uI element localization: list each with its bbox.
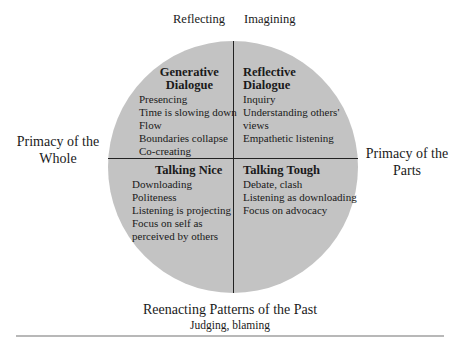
quadrant-generative-dialogue: Generative Dialogue Presencing Time is s… [139, 66, 237, 158]
horizontal-axis-line [108, 158, 358, 159]
quadrant-items: Debate, clash Listening as downloading F… [243, 178, 357, 217]
quadrant-talking-nice: Talking Nice Downloading Politeness List… [132, 164, 231, 243]
quadrant-title: Talking Tough [243, 164, 357, 177]
quadrant-talking-tough: Talking Tough Debate, clash Listening as… [243, 164, 357, 217]
quadrant-title: Reflective Dialogue [243, 66, 339, 92]
quadrant-reflective-dialogue: Reflective Dialogue Inquiry Understandin… [243, 66, 339, 145]
quadrant-items: Downloading Politeness Listening is proj… [132, 178, 231, 243]
quadrant-items: Presencing Time is slowing down Flow Bou… [139, 93, 237, 158]
side-label-whole: Primacy of the Whole [4, 133, 112, 167]
side-label-parts: Primacy of the Parts [353, 145, 460, 179]
quadrant-items: Inquiry Understanding others' views Empa… [243, 93, 339, 145]
top-label-imagining: Imagining [244, 12, 295, 27]
bottom-rule [16, 335, 444, 337]
bottom-subtitle: Judging, blaming [0, 319, 460, 331]
bottom-title: Reenacting Patterns of the Past [0, 302, 460, 318]
top-label-reflecting: Reflecting [173, 12, 225, 27]
quadrant-title: Talking Nice [132, 164, 231, 177]
quadrant-title: Generative Dialogue [139, 66, 237, 92]
